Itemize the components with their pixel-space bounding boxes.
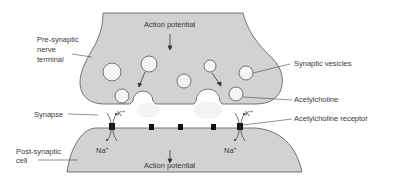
acetylcholine-label: Acetylcholine: [294, 95, 338, 104]
acetylcholine-receptor: [211, 124, 216, 130]
synaptic-vesicles-label: Synaptic vesicles: [294, 59, 352, 68]
action-potential-top-label: Action potential: [144, 20, 196, 29]
receptor-leader: [243, 119, 292, 125]
synaptic-vesicle: [103, 63, 121, 81]
synaptic-vesicle: [141, 56, 157, 72]
sodium-arrowhead: [106, 139, 108, 141]
acetylcholine-receptor: [178, 124, 183, 130]
ion-charge: +: [122, 108, 125, 114]
postsynaptic-label-line2: cell: [16, 156, 28, 165]
synaptic-vesicle: [204, 60, 216, 72]
potassium-label-left: K+: [117, 108, 125, 118]
ion-charge: +: [106, 145, 109, 151]
synaptic-vesicle: [177, 74, 191, 88]
acetylcholine-receptor-label: Acetylcholine receptor: [294, 114, 368, 123]
postsynaptic-label-line1: Post-synaptic: [16, 147, 61, 156]
potassium-label-right: K+: [245, 108, 253, 118]
synaptic-vesicle: [115, 89, 129, 103]
ion-charge: +: [250, 108, 253, 114]
presynaptic-label-line1: Pre-synaptic: [37, 35, 79, 44]
presynaptic-label-line3: terminal: [37, 55, 64, 64]
acetylcholine-release: [137, 103, 159, 117]
synapse-leader: [68, 114, 98, 115]
action-potential-bottom-label: Action potential: [144, 161, 196, 170]
ion-charge: +: [234, 145, 237, 151]
sodium-arrowhead: [234, 139, 236, 141]
synaptic-vesicle: [239, 66, 253, 80]
synaptic-vesicle: [229, 87, 243, 101]
acetylcholine-release: [194, 102, 222, 118]
presynaptic-label-line2: nerve: [37, 45, 56, 54]
synapse-diagram: Action potential Pre-synaptic nerve term…: [0, 0, 394, 182]
synapse-label: Synapse: [34, 110, 63, 119]
acetylcholine-receptor: [149, 124, 154, 130]
